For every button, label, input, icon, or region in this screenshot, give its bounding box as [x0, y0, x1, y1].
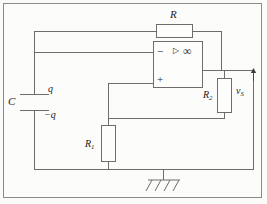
wire-bottom-rail	[34, 169, 253, 170]
capacitor-charge-positive-label: q	[48, 84, 53, 94]
wire-vs-measurement	[253, 70, 254, 170]
wire-inverting-input	[34, 52, 153, 53]
voltage-vS-arrow-icon	[249, 68, 258, 82]
wire-feedback-top-left	[34, 31, 156, 32]
opamp-inverting-input-label: −	[157, 46, 163, 57]
wire-divider-node-vertical	[108, 83, 109, 118]
wire-r2-top-lead	[224, 70, 225, 78]
resistor-R1-label: R1	[85, 139, 95, 150]
opamp-noninverting-input-label: +	[157, 74, 163, 85]
resistor-R-label: R	[170, 9, 177, 20]
resistor-R-body	[156, 24, 193, 38]
resistor-R2-body	[217, 78, 232, 113]
capacitor-charge-negative-label: −q	[44, 110, 56, 120]
resistor-R2-label: R2	[203, 90, 213, 101]
wire-noninverting-input	[108, 83, 153, 84]
capacitor-plate-top	[20, 94, 49, 95]
wire-r1-top-lead	[108, 118, 109, 125]
wire-opamp-output	[203, 70, 253, 71]
opamp-infinite-gain-label: ∞	[183, 45, 192, 57]
wire-feedback-top-right	[193, 31, 222, 32]
resistor-R1-body	[101, 125, 116, 162]
wire-feedback-down	[221, 31, 222, 70]
wire-left-rail-upper	[34, 31, 35, 94]
wire-divider-node-horizontal	[108, 118, 224, 119]
voltage-vS-label: vS	[236, 86, 244, 97]
wire-left-rail-lower	[34, 110, 35, 170]
circuit-diagram-canvas: R − + ▷ ∞ C q −q R2 R1 vS	[0, 0, 267, 204]
ground-symbol	[145, 178, 183, 196]
capacitor-C-label: C	[8, 96, 15, 107]
opamp-triangle-icon: ▷	[173, 47, 179, 55]
wire-r2-bottom-lead	[224, 113, 225, 119]
